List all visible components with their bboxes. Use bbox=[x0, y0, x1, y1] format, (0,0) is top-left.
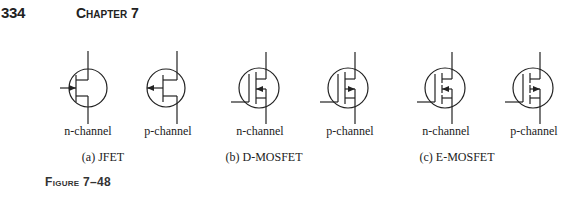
caption-d-mosfet: (b) D-MOSFET bbox=[226, 150, 303, 165]
d-mosfet-n-channel-symbol bbox=[231, 52, 279, 124]
e-mosfet-p-channel-symbol bbox=[505, 52, 553, 124]
d-mosfet-p-channel-symbol bbox=[320, 52, 368, 124]
caption-e-mosfet: (c) E-MOSFET bbox=[420, 150, 495, 165]
caption-jfet: (a) JFET bbox=[82, 150, 124, 165]
e-mosfet-p-channel-label: p-channel bbox=[510, 124, 557, 139]
jfet-p-channel-symbol bbox=[147, 51, 185, 124]
d-mosfet-n-channel-label: n-channel bbox=[236, 124, 283, 139]
d-mosfet-p-channel-label: p-channel bbox=[326, 124, 373, 139]
e-mosfet-n-channel-symbol bbox=[417, 52, 465, 124]
jfet-p-channel-label: p-channel bbox=[144, 124, 191, 139]
e-mosfet-n-channel-label: n-channel bbox=[422, 124, 469, 139]
figure-label: Figure 7–48 bbox=[45, 175, 111, 189]
transistor-symbols-figure bbox=[0, 0, 583, 198]
jfet-n-channel-symbol bbox=[60, 51, 107, 124]
jfet-n-channel-label: n-channel bbox=[64, 124, 111, 139]
